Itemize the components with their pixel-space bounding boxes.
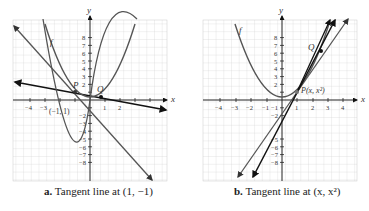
point-P-coord-label: (−1, 1) (49, 107, 70, 116)
svg-text:−7: −7 (79, 151, 87, 158)
svg-text:5: 5 (82, 58, 85, 65)
caption-b-letter: b. (234, 185, 243, 197)
svg-text:−8: −8 (271, 159, 278, 166)
point-P (73, 90, 77, 94)
panel-a: 876 543 2 −2−3−4 −5−6−7 −8 −4−3 12 f P Q… (13, 5, 175, 181)
panel-b: 876 543 2 −1−2 −5−6−7 −8 −4−3−2 −112 34 … (203, 5, 365, 181)
svg-text:−6: −6 (271, 144, 279, 151)
svg-text:5: 5 (274, 58, 277, 65)
svg-text:3: 3 (274, 73, 277, 80)
svg-text:−4: −4 (25, 104, 33, 111)
svg-text:3: 3 (326, 104, 329, 111)
point-Q-label: Q (97, 84, 104, 94)
svg-text:−7: −7 (271, 151, 279, 158)
y-axis-label: y (278, 5, 283, 15)
svg-text:1: 1 (103, 104, 106, 111)
point-P (295, 90, 299, 94)
svg-text:−1: −1 (262, 104, 269, 111)
svg-text:2: 2 (274, 81, 277, 88)
x-axis-label: x (360, 94, 365, 104)
svg-text:−1: −1 (271, 104, 278, 111)
caption-a-letter: a. (44, 185, 52, 197)
caption-a-text: Tangent line at (1, −1) (55, 185, 153, 197)
svg-text:−6: −6 (79, 144, 87, 151)
caption-b-text: Tangent line at (x, x²) (245, 185, 340, 197)
svg-text:−2: −2 (271, 112, 278, 119)
svg-text:−4: −4 (215, 104, 223, 111)
svg-text:−2: −2 (79, 112, 86, 119)
svg-text:8: 8 (82, 34, 85, 41)
svg-text:2: 2 (82, 81, 85, 88)
y-axis-label: y (86, 5, 91, 15)
point-P-label: P (72, 80, 79, 90)
svg-text:3: 3 (82, 73, 85, 80)
point-Q (319, 49, 323, 53)
caption-a: a. Tangent line at (1, −1) (44, 185, 153, 197)
figure: 876 543 2 −2−3−4 −5−6−7 −8 −4−3 12 f P Q… (0, 0, 369, 211)
svg-text:−3: −3 (40, 104, 47, 111)
svg-text:1: 1 (295, 104, 298, 111)
svg-text:−8: −8 (79, 159, 86, 166)
svg-text:8: 8 (274, 34, 277, 41)
svg-text:−3: −3 (231, 104, 238, 111)
x-axis-label: x (170, 94, 175, 104)
caption-b: b. Tangent line at (x, x²) (234, 185, 341, 197)
point-P-label: P(x, x²) (300, 86, 325, 95)
point-Q-label: Q (308, 42, 315, 52)
svg-text:−2: −2 (246, 104, 253, 111)
svg-text:2: 2 (311, 104, 314, 111)
point-Q (99, 95, 103, 99)
svg-text:2: 2 (118, 104, 121, 111)
